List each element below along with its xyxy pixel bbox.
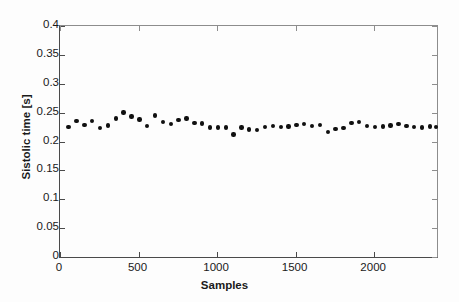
x-axis-tick-label: 2000 — [360, 262, 386, 274]
data-point — [279, 125, 283, 129]
data-point — [388, 123, 392, 127]
x-axis-tick-mirror — [374, 26, 375, 31]
data-point — [145, 124, 149, 128]
x-axis-title: Samples — [0, 279, 459, 291]
x-axis-tick-label: 0 — [56, 262, 62, 274]
data-point — [326, 130, 330, 134]
data-point — [66, 125, 70, 129]
y-axis-tick-label: 0.35 — [37, 48, 59, 60]
data-point — [404, 124, 408, 128]
data-point — [98, 126, 102, 130]
y-axis-tick-label: 0.4 — [43, 19, 59, 31]
data-point — [200, 121, 204, 125]
data-point — [224, 125, 228, 129]
x-axis-tick — [60, 252, 61, 257]
data-point — [121, 110, 125, 114]
y-axis-tick-mirror — [432, 113, 437, 114]
data-point — [318, 123, 322, 127]
x-axis-tick-mirror — [139, 26, 140, 31]
data-point — [381, 124, 385, 128]
y-axis-tick-label: 0.3 — [43, 77, 59, 89]
data-point — [255, 128, 259, 132]
data-point — [396, 122, 400, 126]
data-point — [349, 121, 353, 125]
data-point — [137, 117, 141, 121]
y-axis-tick-label: 0.25 — [37, 106, 59, 118]
data-point — [333, 127, 337, 131]
x-axis-tick-mirror — [60, 26, 61, 31]
y-axis-tick-mirror — [432, 142, 437, 143]
data-point — [161, 120, 165, 124]
y-axis-tick — [60, 55, 65, 56]
data-point — [412, 125, 416, 129]
x-axis-tick-label: 1000 — [203, 262, 229, 274]
y-axis-tick — [60, 142, 65, 143]
data-point — [428, 124, 432, 128]
y-axis-tick — [60, 199, 65, 200]
x-axis-tick — [217, 252, 218, 257]
data-point — [106, 123, 110, 127]
data-point — [231, 132, 235, 136]
y-axis-tick-mirror — [432, 257, 437, 258]
y-axis-tick-mirror — [432, 84, 437, 85]
y-axis-tick — [60, 170, 65, 171]
data-point — [184, 116, 188, 120]
y-axis-title: Sistolic time [s] — [20, 37, 32, 237]
data-point — [420, 125, 424, 129]
y-axis-tick-label: 0.05 — [37, 221, 59, 233]
x-axis-tick — [374, 252, 375, 257]
data-point — [341, 126, 345, 130]
y-axis-tick-mirror — [432, 199, 437, 200]
figure-canvas: 00.050.10.150.20.250.30.350.4 Samples Si… — [0, 0, 459, 302]
data-point — [302, 122, 306, 126]
data-point — [365, 124, 369, 128]
y-axis-tick-label: 0.2 — [43, 135, 59, 147]
data-point — [176, 118, 180, 122]
y-axis-tick — [60, 113, 65, 114]
y-axis-tick-mirror — [432, 228, 437, 229]
data-point — [74, 119, 78, 123]
x-axis-tick-label: 500 — [128, 262, 147, 274]
data-point — [90, 119, 94, 123]
x-axis-tick — [139, 252, 140, 257]
y-axis-tick-mirror — [432, 170, 437, 171]
data-point — [208, 125, 212, 129]
x-axis-tick-mirror — [296, 26, 297, 31]
y-axis-tick — [60, 84, 65, 85]
data-point — [357, 120, 361, 124]
data-point — [239, 125, 243, 129]
data-point — [129, 114, 133, 118]
y-axis-tick-label: 0.1 — [43, 192, 59, 204]
data-point — [169, 122, 173, 126]
scatter-series — [60, 26, 437, 257]
data-point — [271, 124, 275, 128]
data-point — [263, 125, 267, 129]
data-point — [310, 124, 314, 128]
data-point — [216, 125, 220, 129]
y-axis-tick-mirror — [432, 55, 437, 56]
data-point — [373, 125, 377, 129]
plot-area — [59, 25, 438, 258]
data-point — [192, 121, 196, 125]
data-point — [434, 125, 438, 129]
y-axis-tick — [60, 228, 65, 229]
data-point — [294, 123, 298, 127]
y-axis-tick-label: 0.15 — [37, 163, 59, 175]
x-axis-title-text: Samples — [201, 279, 248, 291]
data-point — [247, 127, 251, 131]
data-point — [82, 123, 86, 127]
data-point — [114, 116, 118, 120]
y-axis-tick — [60, 257, 65, 258]
y-axis-tick-mirror — [432, 26, 437, 27]
x-axis-tick-label: 1500 — [282, 262, 308, 274]
x-axis-tick-mirror — [217, 26, 218, 31]
data-point — [286, 124, 290, 128]
x-axis-tick — [296, 252, 297, 257]
data-point — [153, 113, 157, 117]
